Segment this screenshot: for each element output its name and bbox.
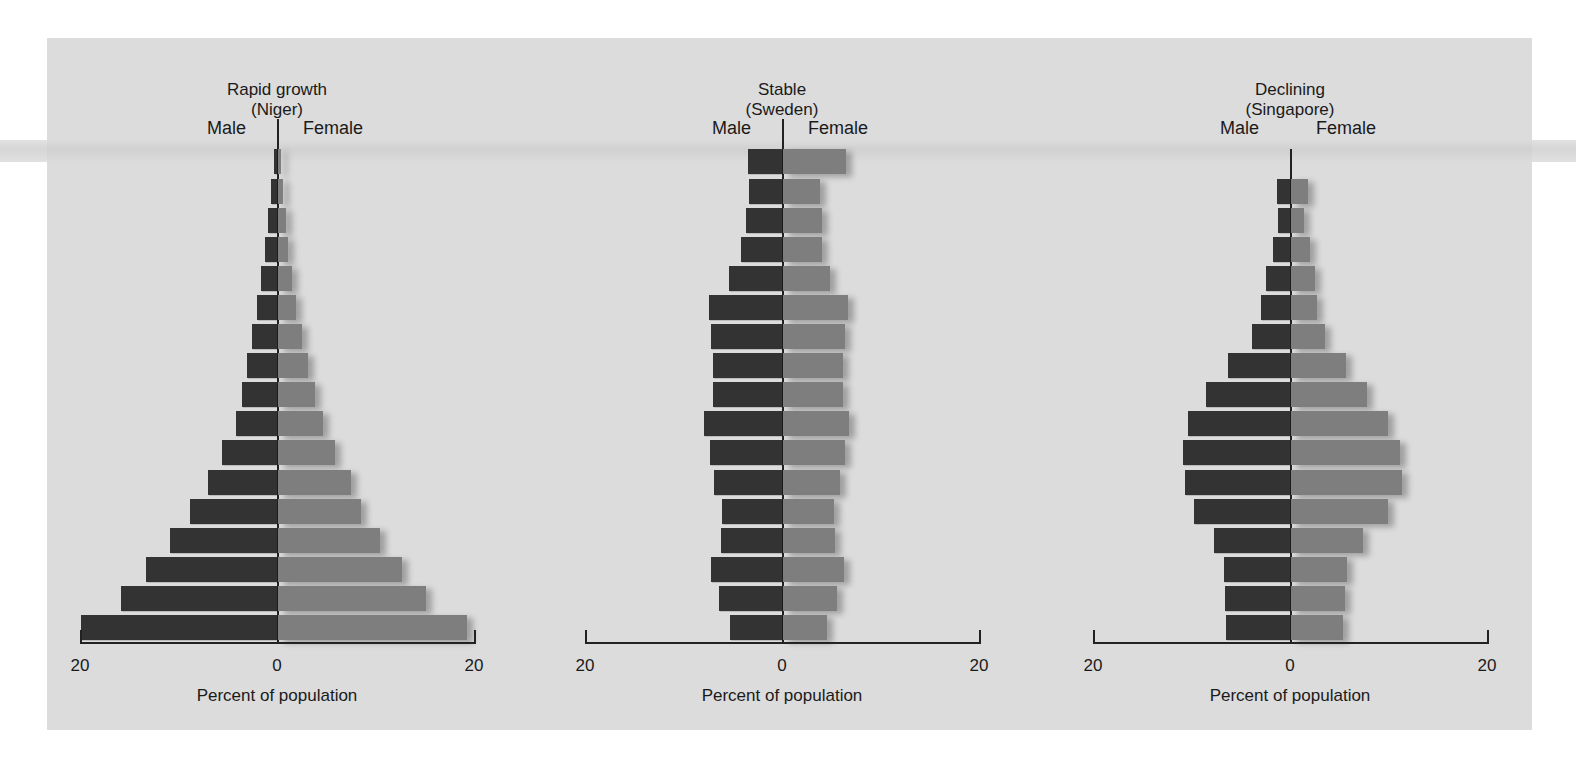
title-line: Rapid growth: [67, 80, 487, 100]
male-label: Male: [712, 118, 751, 139]
male-bar: [711, 557, 782, 582]
female-bar: [1291, 382, 1367, 407]
female-bar: [278, 208, 286, 233]
male-bar: [1252, 324, 1290, 349]
female-bar: [783, 586, 837, 611]
male-bar: [730, 615, 782, 640]
male-bar: [1278, 208, 1290, 233]
female-bar: [1291, 499, 1388, 524]
tick-label-left: 20: [565, 656, 605, 676]
female-bar: [783, 615, 827, 640]
subtitle-line: (Singapore): [1080, 100, 1500, 120]
male-bar: [1277, 179, 1290, 204]
male-bar: [1228, 353, 1290, 378]
male-bar: [1188, 411, 1290, 436]
x-axis-tick-right: [1487, 630, 1489, 644]
female-bar: [278, 615, 467, 640]
female-bar: [1291, 237, 1310, 262]
male-bar: [1214, 528, 1290, 553]
x-axis-label: Percent of population: [572, 686, 992, 706]
male-bar: [208, 470, 277, 495]
female-label: Female: [303, 118, 363, 139]
female-bar: [278, 324, 302, 349]
female-bar: [1291, 615, 1343, 640]
female-bar: [783, 382, 843, 407]
male-bar: [713, 382, 782, 407]
female-bar: [783, 528, 835, 553]
male-bar: [1261, 295, 1290, 320]
female-bar: [1291, 470, 1402, 495]
female-bar: [783, 440, 845, 465]
chart-title: Declining (Singapore): [1080, 80, 1500, 120]
pyramid-niger: Rapid growth (Niger) MaleFemale20020Perc…: [67, 0, 487, 762]
female-bar: [278, 266, 292, 291]
x-axis-line: [585, 642, 979, 644]
pyramid-singapore: Declining (Singapore) MaleFemale20020Per…: [1080, 0, 1500, 762]
female-bar: [783, 499, 834, 524]
female-bar: [278, 295, 296, 320]
male-bar: [261, 266, 277, 291]
male-bar: [722, 499, 782, 524]
male-bar: [729, 266, 782, 291]
female-bar: [1291, 440, 1400, 465]
male-bar: [247, 353, 277, 378]
male-label: Male: [207, 118, 246, 139]
female-bar: [1291, 528, 1363, 553]
male-bar: [265, 237, 277, 262]
x-axis-tick-right: [979, 630, 981, 644]
female-bar: [278, 499, 361, 524]
x-axis-line: [1093, 642, 1487, 644]
female-bar: [278, 440, 335, 465]
female-bar: [1291, 411, 1388, 436]
female-bar: [783, 353, 843, 378]
male-bar: [1206, 382, 1290, 407]
female-bar: [783, 179, 820, 204]
male-bar: [81, 615, 277, 640]
female-bar: [278, 353, 308, 378]
female-bar: [1291, 208, 1304, 233]
male-bar: [121, 586, 277, 611]
female-bar: [1291, 557, 1347, 582]
male-bar: [274, 149, 277, 174]
male-bar: [257, 295, 277, 320]
male-bar: [719, 586, 782, 611]
x-axis-tick-left: [1093, 630, 1095, 644]
male-bar: [704, 411, 782, 436]
male-bar: [242, 382, 277, 407]
female-bar: [783, 470, 840, 495]
female-bar: [783, 295, 848, 320]
female-bar: [278, 149, 281, 174]
female-bar: [783, 266, 830, 291]
female-bar: [278, 237, 288, 262]
male-bar: [190, 499, 277, 524]
male-bar: [1185, 470, 1290, 495]
chart-title: Rapid growth (Niger): [67, 80, 487, 120]
male-bar: [709, 295, 782, 320]
male-bar: [1225, 586, 1290, 611]
x-axis-line: [80, 642, 474, 644]
subtitle-line: (Niger): [67, 100, 487, 120]
tick-label-zero: 0: [257, 656, 297, 676]
female-bar: [1291, 353, 1346, 378]
tick-label-right: 20: [454, 656, 494, 676]
male-bar: [1194, 499, 1290, 524]
male-bar: [1266, 266, 1290, 291]
tick-label-left: 20: [60, 656, 100, 676]
x-axis-tick-left: [585, 630, 587, 644]
female-bar: [1291, 295, 1317, 320]
female-label: Female: [808, 118, 868, 139]
female-bar: [278, 586, 426, 611]
male-label: Male: [1220, 118, 1259, 139]
male-bar: [252, 324, 277, 349]
female-bar: [783, 324, 845, 349]
male-bar: [1226, 615, 1290, 640]
female-bar: [278, 470, 351, 495]
tick-label-left: 20: [1073, 656, 1113, 676]
tick-label-right: 20: [1467, 656, 1507, 676]
male-bar: [170, 528, 277, 553]
male-bar: [1224, 557, 1290, 582]
male-bar: [711, 324, 782, 349]
male-bar: [222, 440, 277, 465]
title-line: Declining: [1080, 80, 1500, 100]
male-bar: [710, 440, 782, 465]
